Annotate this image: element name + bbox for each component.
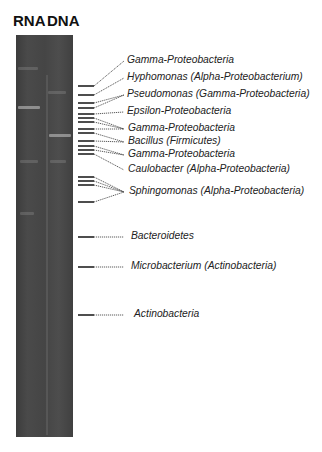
marker-connectors	[0, 0, 322, 452]
connector-line	[94, 122, 124, 129]
connector-line	[94, 118, 124, 129]
connector-line	[94, 61, 124, 86]
taxon-label: Caulobacter (Alpha-Proteobacteria)	[128, 163, 290, 174]
connector-line	[94, 154, 124, 170]
connector-line	[94, 112, 124, 114]
taxon-label: Actinobacteria	[134, 308, 199, 319]
connector-line	[94, 177, 124, 192]
connector-line	[94, 141, 124, 142]
taxon-label: Gamma-Proteobacteria	[128, 148, 235, 159]
taxon-label: Gamma-Proteobacteria	[128, 122, 235, 133]
taxon-label: Hyphomonas (Alpha-Proteobacterium)	[127, 71, 303, 82]
connector-line	[94, 133, 124, 142]
connector-line	[94, 78, 124, 95]
connector-line	[94, 150, 124, 155]
taxon-label: Gamma-Proteobacteria	[127, 54, 234, 65]
taxon-label: Epsilon-Proteobacteria	[127, 105, 231, 116]
connector-line	[94, 185, 124, 192]
connector-line	[94, 181, 124, 192]
connector-line	[94, 192, 124, 202]
taxon-label: Pseudomonas (Gamma-Proteobacteria)	[127, 88, 310, 99]
taxon-label: Bacillus (Firmicutes)	[128, 135, 221, 146]
taxon-label: Microbacterium (Actinobacteria)	[131, 260, 276, 271]
taxon-label: Bacteroidetes	[131, 230, 194, 241]
taxon-label: Sphingomonas (Alpha-Proteobacteria)	[129, 185, 304, 196]
